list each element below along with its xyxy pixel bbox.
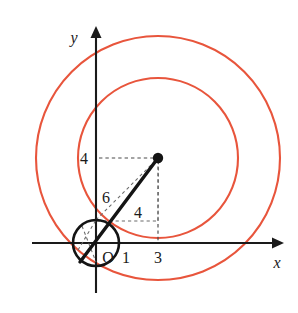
- x-tick-label-1: 1: [122, 249, 130, 266]
- x-tick-label-3: 3: [154, 249, 162, 266]
- center-point-dot: [153, 153, 163, 163]
- y-axis-arrowhead: [91, 26, 102, 38]
- segment-4-label: 4: [134, 204, 142, 221]
- x-axis-arrowhead: [272, 238, 284, 249]
- y-tick-label-4: 4: [80, 150, 88, 167]
- segment-6-label: 6: [102, 189, 110, 206]
- segment-4-vertical-line: [158, 160, 159, 220]
- y-axis-label: y: [68, 29, 78, 47]
- geometry-diagram: y x O 4 1 3 6 4: [0, 0, 298, 313]
- origin-label: O: [102, 249, 114, 266]
- geometry-canvas: y x O 4 1 3 6 4: [0, 0, 298, 313]
- x-axis-label: x: [272, 254, 280, 271]
